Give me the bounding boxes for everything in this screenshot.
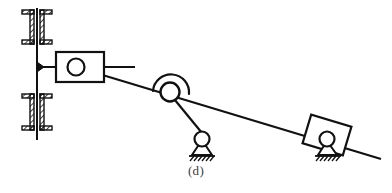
- figure-caption: (d): [0, 163, 392, 179]
- pin-joint-left: [68, 59, 85, 76]
- upper-bracket-left-bottom-flange: [22, 40, 34, 44]
- slider-block-left: [56, 52, 104, 82]
- pivot-joint-middle-circle: [161, 83, 180, 102]
- lower-bracket-left-bottom-flange: [22, 126, 34, 130]
- kinematic-figure: (d): [0, 0, 392, 193]
- upper-bracket-right-bottom-flange: [40, 40, 52, 44]
- lower-bracket-left-web: [30, 94, 34, 130]
- lower-bracket-right-bottom-flange: [40, 126, 52, 130]
- upper-bracket-right-web: [40, 10, 44, 44]
- upper-bracket-left-web: [30, 10, 34, 44]
- ground-slider-support-circle: [320, 132, 335, 147]
- ground-pin-support-circle: [195, 132, 210, 147]
- lower-bracket-right-web: [40, 94, 44, 130]
